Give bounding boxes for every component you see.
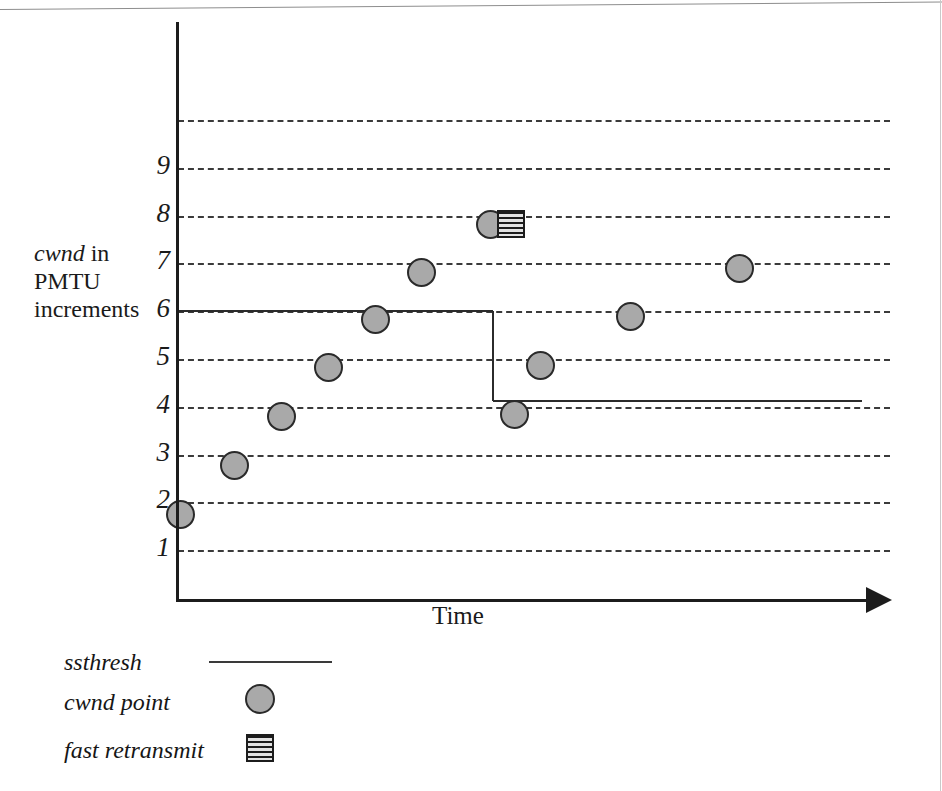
gridline xyxy=(178,120,890,122)
legend-item: cwnd point xyxy=(64,690,384,724)
y-axis-title-line3: increments xyxy=(34,296,139,322)
cwnd-point-marker xyxy=(725,254,754,283)
legend-item-label: fast retransmit xyxy=(64,738,204,762)
legend-item-marker xyxy=(209,738,339,768)
legend-item-marker xyxy=(209,690,339,720)
legend-line-icon xyxy=(209,661,332,663)
legend-item-marker xyxy=(209,650,339,680)
y-tick-label-text: 3 xyxy=(157,439,171,466)
legend-item: ssthresh xyxy=(64,650,384,684)
y-tick-label-text: 1 xyxy=(157,534,171,561)
y-tick-label-text: 5 xyxy=(157,343,171,370)
gridline xyxy=(178,168,890,170)
y-axis-title-rest: in xyxy=(85,240,110,266)
cwnd-point-marker xyxy=(220,451,249,480)
y-axis-title-line2: PMTU xyxy=(34,268,101,294)
cwnd-point-marker xyxy=(616,302,645,331)
gridline xyxy=(178,502,890,504)
y-axis-title: cwnd inPMTUincrements xyxy=(34,240,166,323)
y-tick-label-text: 8 xyxy=(157,200,171,227)
legend-item-label: ssthresh xyxy=(64,650,142,674)
ssthresh-segment xyxy=(493,400,862,402)
x-axis-line xyxy=(176,599,876,602)
chart-page: 123456789 cwnd inPMTUincrements Time sst… xyxy=(0,0,942,791)
legend-item-label: cwnd point xyxy=(64,690,170,714)
y-axis-title-italic: cwnd xyxy=(34,240,85,266)
gridline xyxy=(178,550,890,552)
cwnd-point-marker xyxy=(526,351,555,380)
cwnd-point-marker xyxy=(500,400,529,429)
cwnd-point-marker xyxy=(407,258,436,287)
gridline xyxy=(178,216,890,218)
ssthresh-segment xyxy=(178,310,493,312)
legend-circle-icon xyxy=(245,684,275,714)
legend-item: fast retransmit xyxy=(64,738,384,772)
cwnd-point-marker xyxy=(361,305,390,334)
legend-striped-square-icon xyxy=(246,734,274,762)
y-axis-line xyxy=(176,22,179,602)
fast-retransmit-marker xyxy=(497,210,525,238)
cwnd-point-marker xyxy=(267,402,296,431)
cwnd-point-marker xyxy=(314,353,343,382)
x-axis-title: Time xyxy=(432,602,484,630)
y-tick-label-text: 2 xyxy=(157,486,171,513)
gridline xyxy=(178,455,890,457)
y-tick-label-text: 4 xyxy=(157,391,171,418)
y-tick-label-text: 9 xyxy=(157,152,171,179)
gridline xyxy=(178,263,890,265)
x-axis-arrow-icon xyxy=(866,587,892,613)
ssthresh-segment xyxy=(492,311,494,401)
